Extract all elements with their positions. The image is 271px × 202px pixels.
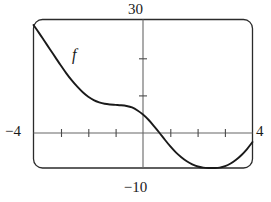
graph-figure: 30 −10 −4 4 f: [0, 0, 271, 202]
x-min-label: −4: [5, 124, 21, 139]
curve-label-f: f: [72, 46, 76, 64]
y-max-label: 30: [0, 2, 271, 17]
plot-canvas: [0, 0, 271, 202]
x-max-label: 4: [256, 124, 264, 139]
y-min-label: −10: [0, 180, 271, 195]
